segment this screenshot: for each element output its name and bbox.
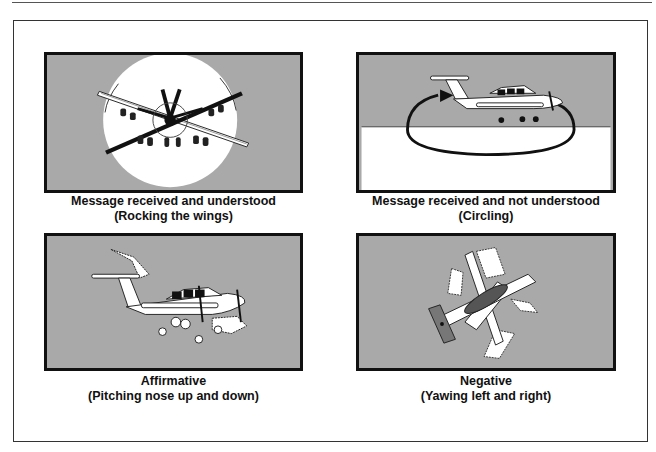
- airplane-rocking-wings-icon: [47, 55, 300, 190]
- caption-affirmative: Affirmative (Pitching nose up and down): [44, 374, 303, 404]
- top-rule: [12, 2, 652, 3]
- caption-subtitle: (Pitching nose up and down): [44, 389, 303, 404]
- panel-affirmative: [44, 233, 303, 371]
- caption-subtitle: (Yawing left and right): [356, 389, 616, 404]
- caption-circling: Message received and not understood (Cir…: [356, 194, 616, 224]
- caption-subtitle: (Rocking the wings): [44, 209, 303, 224]
- panel-negative: [356, 233, 616, 371]
- airplane-pitching-icon: [47, 236, 300, 368]
- caption-title: Message received and understood: [44, 194, 303, 209]
- caption-title: Message received and not understood: [356, 194, 616, 209]
- caption-title: Negative: [356, 374, 616, 389]
- panel-rocking-wings: [44, 52, 303, 193]
- caption-subtitle: (Circling): [356, 209, 616, 224]
- panel-circling: [356, 52, 616, 193]
- airplane-circling-icon: [359, 55, 613, 190]
- airplane-yawing-icon: [359, 236, 613, 368]
- caption-negative: Negative (Yawing left and right): [356, 374, 616, 404]
- caption-title: Affirmative: [44, 374, 303, 389]
- caption-rocking-wings: Message received and understood (Rocking…: [44, 194, 303, 224]
